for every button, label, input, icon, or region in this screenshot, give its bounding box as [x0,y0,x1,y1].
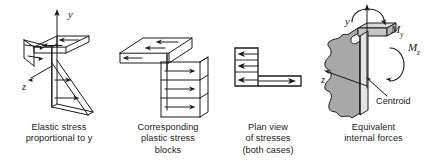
elastic-stress-wedge-flange [24,40,34,66]
figure-stress-distributions: y z Elastic stress proportional to y [0,0,435,163]
stress-arrow-wedge-2 [28,56,44,61]
web-plate [159,55,208,117]
caption-plan-view-stresses: Plan view of stresses (both cases) [218,122,318,156]
stress-arrow-plan-1 [238,51,259,57]
stress-arrow-block-3 [165,105,196,110]
panel-equivalent-internal-forces: y z M y M z Centroid Equivalent internal… [312,0,435,163]
moment-mz-arrow [386,48,405,82]
stress-arrow-flange-1 [59,38,80,43]
caption-line: Elastic stress [0,122,118,133]
moment-label-my: M y [390,23,404,39]
axis-label-z: z [21,81,26,92]
stress-arrow-plan-2 [238,63,259,69]
caption-line: plastic stress [112,133,224,144]
stress-arrow-block-1 [165,69,196,74]
elastic-stress-diagram: y z [0,0,118,122]
top-flange-plate [120,38,192,63]
z-axis-arrow [28,66,52,82]
caption-line: Corresponding [112,122,224,133]
caption-line: Plan view [218,122,318,133]
axis-label-z: z [320,74,325,85]
moment-label-mz: M z [407,41,420,57]
caption-elastic-stress: Elastic stress proportional to y [0,122,118,145]
stress-arrow-flange-1 [156,40,179,45]
caption-plastic-stress-blocks: Corresponding plastic stress blocks [112,122,224,156]
caption-line: Equivalent [312,122,435,133]
panel-elastic-stress: y z Elastic stress proportional to y [0,0,118,163]
panel-plan-view-stresses: Plan view of stresses (both cases) [218,0,318,163]
axis-label-y: y [344,16,350,27]
caption-line: (both cases) [218,145,318,156]
equivalent-internal-forces-diagram: y z M y M z Centroid [312,0,435,122]
stress-arrow-flange-2 [145,46,166,51]
caption-line: of stresses [218,133,318,144]
centroid-label: Centroid [376,96,411,106]
panel-plastic-stress-blocks: Corresponding plastic stress blocks [112,0,224,163]
stress-arrow-plan-3 [238,77,259,83]
moment-my-subscript: y [399,30,404,39]
caption-line: blocks [112,145,224,156]
stress-arrow-block-2 [165,87,196,92]
moment-mz-subscript: z [416,48,420,57]
caption-line: internal forces [312,133,435,144]
plastic-stress-blocks-diagram [112,0,224,122]
stress-arrow-web-2 [55,96,80,101]
elastic-stress-wedge-web [52,60,93,115]
stress-arrow-plan-4 [259,78,296,84]
plan-view-stresses-diagram [218,0,318,122]
centroid-leader-line [366,77,387,96]
caption-equivalent-internal-forces: Equivalent internal forces [312,122,435,145]
caption-line: proportional to y [0,133,118,144]
elastic-wedge-upper [22,30,52,47]
axis-label-y: y [67,9,73,20]
